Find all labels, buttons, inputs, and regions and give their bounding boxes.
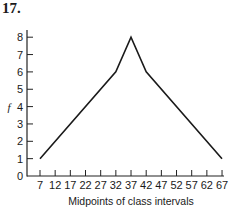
x-tick-label: 27 xyxy=(95,179,107,191)
y-tick-label: 5 xyxy=(17,83,23,95)
x-tick-label: 32 xyxy=(110,179,122,191)
y-tick-label: 3 xyxy=(17,118,23,130)
y-axis-label: f xyxy=(7,101,12,113)
y-tick-label: 4 xyxy=(17,101,23,113)
y-tick-label: 8 xyxy=(17,31,23,43)
frequency-polygon-line xyxy=(40,37,222,159)
x-tick-label: 62 xyxy=(201,179,213,191)
x-tick-label: 7 xyxy=(37,179,43,191)
x-axis-ticks: 7121722273237424752576267 xyxy=(37,170,228,191)
x-tick-label: 22 xyxy=(79,179,91,191)
axes xyxy=(27,30,224,177)
x-tick-label: 52 xyxy=(170,179,182,191)
y-tick-label: 1 xyxy=(17,153,23,165)
y-tick-label: 2 xyxy=(17,135,23,147)
y-tick-label: 7 xyxy=(17,49,23,61)
x-tick-label: 17 xyxy=(64,179,76,191)
x-tick-label: 12 xyxy=(49,179,61,191)
x-axis-label: Midpoints of class intervals xyxy=(68,195,193,207)
x-tick-label: 67 xyxy=(216,179,228,191)
frequency-polygon-chart: 012345678 7121722273237424752576267 Midp… xyxy=(0,0,235,216)
y-tick-label: 6 xyxy=(17,66,23,78)
y-tick-label: 0 xyxy=(17,170,23,182)
x-tick-label: 57 xyxy=(186,179,198,191)
data-series xyxy=(40,37,222,159)
x-tick-label: 47 xyxy=(155,179,167,191)
y-axis-ticks: 012345678 xyxy=(17,31,33,182)
x-tick-label: 37 xyxy=(125,179,137,191)
x-tick-label: 42 xyxy=(140,179,152,191)
